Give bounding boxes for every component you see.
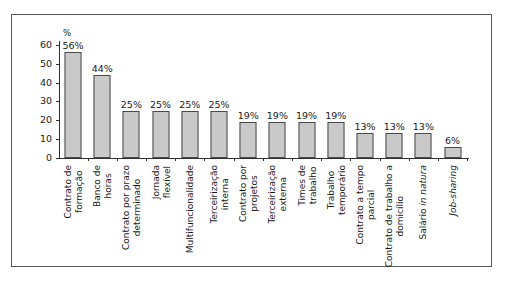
x-category-label-line: horas [102,165,113,207]
x-category-label-line: Contrato a tempo [355,165,366,245]
x-tick-mark [438,158,439,161]
x-category-label: Terceirizaçãoexterna [267,165,288,223]
bar-slot[interactable]: 13% [351,41,379,158]
x-category-label: Contrato deformação [63,165,84,218]
x-category-label: Job-sharing [447,165,458,216]
x-tick-mark [409,158,410,161]
x-category-label-line: Contrato por prazo [121,165,132,250]
x-category-label-line: trabalho [307,165,318,206]
x-tick-mark [292,158,293,161]
bar[interactable] [123,111,140,158]
x-category-label: Contrato de trabalho adomicílio [384,165,405,267]
x-category-label: Contrato a tempoparcial [355,165,376,245]
bar-value-label: 25% [150,99,171,110]
x-category-label-line: Salário in natura [418,165,429,240]
bar-value-label: 13% [354,121,375,132]
bar-value-label: 13% [413,121,434,132]
bar-slot[interactable]: 6% [439,41,467,158]
x-category-label-line: Contrato de trabalho a [384,165,395,267]
x-tick-mark [88,158,89,161]
y-tick-label: 0 [29,153,59,163]
bar-slot[interactable]: 25% [176,41,204,158]
bar[interactable] [444,147,461,158]
bar[interactable] [152,111,169,158]
x-tick-mark [380,158,381,161]
bar-value-label: 19% [296,110,317,121]
x-category-label-line: Terceirização [209,165,220,223]
y-tick-label: 60 [29,40,59,50]
bar[interactable] [65,52,82,158]
y-axis-unit-label: % [63,29,71,38]
bar-value-label: 19% [325,110,346,121]
bar-slot[interactable]: 25% [205,41,233,158]
bar-slot[interactable]: 13% [409,41,437,158]
x-tick-mark [204,158,205,161]
x-category-label-line: Trabalho [325,165,336,215]
bar[interactable] [240,122,257,158]
x-category-label: Multifuncionalidade [185,165,196,253]
x-tick-mark [117,158,118,161]
y-tick-label: 30 [29,96,59,106]
x-category-label: Contrato porprojetos [238,165,259,222]
bar-slot[interactable]: 25% [147,41,175,158]
bar-slot[interactable]: 56% [59,41,87,158]
bar-slot[interactable]: 25% [117,41,145,158]
bar[interactable] [211,111,228,158]
x-category-label-line: Jornada [150,165,161,199]
bar-slot[interactable]: 13% [380,41,408,158]
bar-value-label: 19% [238,110,259,121]
bar-value-label: 13% [384,121,405,132]
x-category-label-line: externa [277,165,288,223]
bar[interactable] [94,75,111,158]
bar-slot[interactable]: 44% [88,41,116,158]
x-category-label-line: interna [219,165,230,223]
y-tick-mark [56,158,59,159]
x-category-label-line: Banco de [92,165,103,207]
y-tick-label: 10 [29,134,59,144]
y-tick-label: 20 [29,115,59,125]
bar-slot[interactable]: 19% [322,41,350,158]
bar[interactable] [327,122,344,158]
x-category-label-line: Times de [296,165,307,206]
bar-value-label: 25% [121,99,142,110]
bar-slot[interactable]: 19% [263,41,291,158]
x-category-label: Jornadaflexível [150,165,171,199]
bar-value-label: 44% [92,63,113,74]
x-category-label-line: Contrato de [63,165,74,218]
x-category-label-line: Contrato por [238,165,249,222]
x-category-label-line: projetos [248,165,259,222]
x-tick-mark [263,158,264,161]
x-category-label-line: flexível [161,165,172,199]
x-category-label-line: Multifuncionalidade [185,165,196,253]
x-category-label-line: Terceirização [267,165,278,223]
x-axis-line [59,158,469,159]
bar-value-label: 6% [445,135,460,146]
bar[interactable] [415,133,432,158]
x-category-label-line: determinado [131,165,142,250]
bar-slot[interactable]: 19% [234,41,262,158]
bar[interactable] [298,122,315,158]
figure: % 0102030405060 56%44%25%25%25%25%19%19%… [0,0,511,287]
bar[interactable] [269,122,286,158]
x-category-label: Terceirizaçãointerna [209,165,230,223]
y-tick-label: 40 [29,78,59,88]
x-tick-mark [234,158,235,161]
bar[interactable] [181,111,198,158]
x-category-label-line: parcial [365,165,376,245]
x-category-label: Times detrabalho [296,165,317,206]
bar-value-label: 25% [208,99,229,110]
x-tick-mark [467,158,468,161]
x-tick-mark [350,158,351,161]
y-tick-label: 50 [29,59,59,69]
x-category-label-line: formação [73,165,84,218]
x-tick-mark [321,158,322,161]
chart-frame: % 0102030405060 56%44%25%25%25%25%19%19%… [11,14,492,267]
x-tick-mark [175,158,176,161]
x-category-label-line: Job-sharing [447,165,458,216]
bar-slot[interactable]: 19% [293,41,321,158]
bar[interactable] [357,133,374,158]
x-category-label: Salário in natura [418,165,429,240]
x-tick-mark [146,158,147,161]
x-category-label-line: temporário [336,165,347,215]
bar[interactable] [386,133,403,158]
